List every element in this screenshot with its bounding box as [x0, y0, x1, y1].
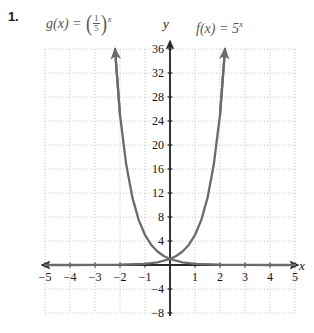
y-tick-label: 16 [144, 162, 164, 177]
y-tick-label: 32 [144, 66, 164, 81]
y-tick-label: 20 [144, 138, 164, 153]
x-tick-label: 2 [212, 270, 228, 285]
y-tick-label: 12 [144, 186, 164, 201]
y-tick-label: 36 [144, 42, 164, 57]
curve-arrow-f [220, 49, 225, 115]
x-tick-label: −3 [87, 270, 103, 285]
y-tick-label: 8 [144, 210, 164, 225]
x-tick-label: −4 [62, 270, 78, 285]
y-tick-label: 4 [144, 234, 164, 249]
curve-g [115, 49, 295, 265]
x-tick-label: 4 [262, 270, 278, 285]
y-axis-label: y [163, 16, 169, 32]
y-tick-label: 24 [144, 114, 164, 129]
y-tick-label: 28 [144, 90, 164, 105]
x-tick-label: −1 [137, 270, 153, 285]
x-tick-label: −5 [37, 270, 53, 285]
x-tick-label: 3 [237, 270, 253, 285]
x-tick-label: −2 [112, 270, 128, 285]
y-tick-label: −8 [144, 306, 164, 321]
curve-arrow-g [115, 49, 120, 115]
worksheet-figure: 1. g(x) = (15)x f(x) = 5x −8−44812162024… [0, 0, 314, 333]
x-axis-label: x [299, 258, 305, 274]
axes [42, 41, 298, 316]
x-tick-label: 1 [187, 270, 203, 285]
curve-f [45, 49, 225, 265]
